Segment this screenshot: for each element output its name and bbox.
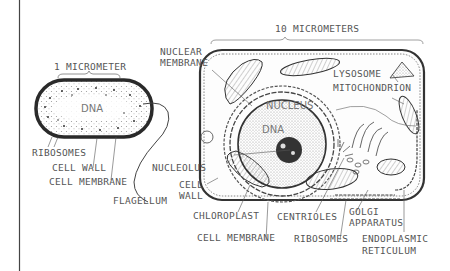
eukaryote-cell-wall-label-line2: WALL	[179, 191, 203, 201]
chloroplast-label: CHLOROPLAST	[193, 211, 259, 221]
prokaryote-cell-wall-label: CELL WALL	[52, 163, 106, 173]
prokaryote-scale-label: 1 MICROMETER	[54, 62, 126, 72]
prokaryote-cell-membrane-label: CELL MEMBRANE	[49, 177, 127, 187]
lysosome-label: LYSOSOME	[333, 69, 381, 79]
centrioles-label: CENTRIOLES	[277, 212, 337, 222]
eukaryote-scale-bracket	[211, 37, 423, 44]
nuclear-membrane-label-line1: NUCLEAR	[160, 47, 202, 57]
eukaryote-cell-membrane-label: CELL MEMBRANE	[197, 233, 275, 243]
golgi-label-line2: APPARATUS	[349, 218, 403, 228]
nucleus-label: NUCLEUS	[266, 100, 313, 111]
prokaryote-scale-bracket	[58, 71, 120, 78]
mitochondrion-label: MITOCHONDRION	[333, 83, 411, 93]
nucleolus-label: NUCLEOLUS	[152, 163, 206, 173]
eukaryote-ribosomes-label: RIBOSOMES	[294, 234, 348, 244]
cell-comparison-diagram	[0, 0, 450, 271]
flagellum-label: FLAGELLUM	[113, 196, 167, 206]
er-label-line1: ENDOPLASMIC	[362, 234, 428, 244]
er-label-line2: RETICULUM	[362, 246, 416, 256]
eukaryote-cell-wall-label-line1: CELL	[179, 180, 203, 190]
prokaryote-dna-label: DNA	[81, 103, 103, 114]
eukaryote-scale-label: 10 MICROMETERS	[275, 24, 359, 34]
prokaryote-ribosomes-label: RIBOSOMES	[32, 148, 86, 158]
nuclear-membrane-label-line2: MEMBRANE	[160, 58, 208, 68]
eukaryote-dna-label: DNA	[262, 124, 284, 135]
golgi-label-line1: GOLGI	[349, 207, 379, 217]
